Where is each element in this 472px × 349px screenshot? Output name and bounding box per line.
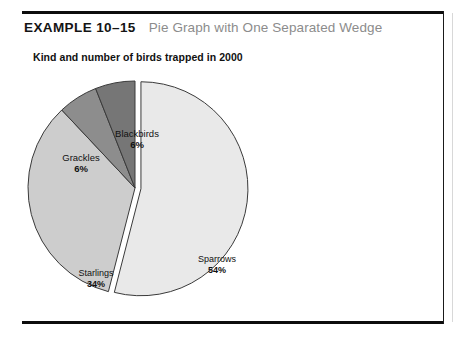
pie-label-sparrows: Sparrows 54% <box>177 254 257 275</box>
pie-label-starlings-name: Starlings <box>56 268 136 279</box>
frame-rule-right-secondary <box>452 13 453 322</box>
example-header: EXAMPLE 10–15 Pie Graph with One Separat… <box>24 20 382 35</box>
frame-rule-bottom <box>22 321 444 324</box>
pie-label-blackbirds-name: Blackbirds <box>100 128 174 139</box>
pie-label-sparrows-name: Sparrows <box>177 254 257 265</box>
example-number-label: EXAMPLE 10–15 <box>24 20 136 35</box>
pie-label-starlings: Starlings 34% <box>56 268 136 289</box>
pie-label-grackles-name: Grackles <box>48 152 114 163</box>
pie-label-starlings-percent: 34% <box>56 279 136 290</box>
pie-label-grackles-percent: 6% <box>48 163 114 174</box>
example-title: Pie Graph with One Separated Wedge <box>149 20 383 35</box>
pie-label-sparrows-percent: 54% <box>177 265 257 276</box>
pie-chart: Blackbirds 6% Grackles 6% Sparrows 54% S… <box>22 62 282 312</box>
frame-rule-right <box>443 11 444 324</box>
pie-label-blackbirds: Blackbirds 6% <box>100 128 174 150</box>
pie-label-blackbirds-percent: 6% <box>100 139 174 150</box>
pie-label-grackles: Grackles 6% <box>48 152 114 174</box>
frame-rule-top <box>22 11 444 14</box>
